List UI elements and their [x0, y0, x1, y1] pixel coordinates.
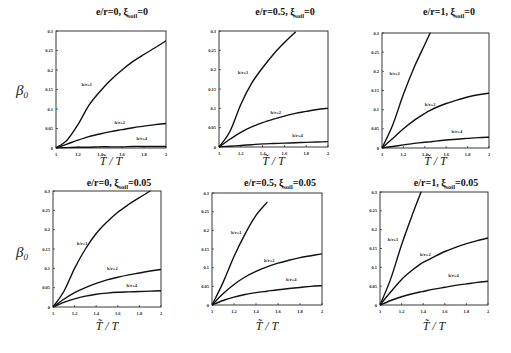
panel-title: e/r=1, ξsoil=0.05: [414, 177, 478, 190]
y-tick-label: 0: [51, 146, 54, 151]
curve-label: h/r=2: [115, 120, 126, 125]
panel-title: e/r=1, ξsoil=0: [423, 6, 475, 19]
x-tick-label: 1.6: [275, 309, 281, 314]
x-tick-label: 1.2: [238, 151, 244, 156]
y-tick-label: 0: [48, 305, 51, 310]
y-tick-label: 0.2: [373, 69, 379, 74]
y-tick-label: 0.15: [201, 247, 210, 252]
curve-label: h/r=1: [77, 241, 88, 246]
y-tick-label: 0.3: [210, 29, 216, 34]
curve-label: h/r=1: [82, 82, 93, 87]
x-tick-label: 1: [52, 311, 55, 316]
x-tick-label: 1.8: [141, 152, 147, 157]
y-tick-label: 0.15: [369, 246, 378, 251]
curve-label: h/r=2: [270, 110, 281, 115]
y-tick-label: 0.25: [208, 48, 217, 53]
x-tick-label: 2: [160, 311, 163, 316]
y-tick-label: 0.05: [369, 284, 378, 289]
y-tick-label: 0.15: [42, 247, 51, 252]
x-axis-label: T̃ / T: [256, 319, 280, 333]
panel-title: e/r=0, ξsoil=0.05: [87, 177, 151, 190]
y-tick-label: 0.2: [371, 227, 377, 232]
y-tick-label: 0.3: [373, 31, 379, 36]
curve-label: h/r=2: [107, 266, 118, 271]
y-tick-label: 0: [375, 303, 378, 308]
x-tick-label: 1.6: [442, 309, 448, 314]
x-tick-label: 1: [218, 151, 221, 156]
y-tick-label: 0.15: [45, 87, 54, 92]
plot-area: [56, 31, 166, 148]
x-tick-label: 1.4: [420, 309, 426, 314]
y-tick-label: 0: [377, 146, 380, 151]
curve-label: h/r=4: [137, 136, 148, 141]
y-tick-label: 0.2: [210, 67, 216, 72]
y-tick-label: 0.25: [45, 48, 54, 53]
y-tick-label: 0.2: [47, 68, 53, 73]
y-tick-label: 0.3: [371, 190, 377, 195]
curve-label: h/r=4: [127, 283, 138, 288]
curve-label: h/r=4: [448, 273, 459, 278]
curve-label: h/r=1: [388, 237, 399, 242]
y-tick-label: 0.1: [203, 265, 209, 270]
x-tick-label: 1.8: [464, 309, 470, 314]
y-tick-label: 0.1: [47, 107, 53, 112]
y-tick-label: 0.1: [210, 106, 216, 111]
panel-title: e/r=0.5, ξsoil=0: [255, 6, 314, 19]
x-tick-label: 1.2: [72, 311, 78, 316]
x-axis-label: T̃ / T: [424, 154, 448, 168]
curve-label: h/r=2: [264, 258, 275, 263]
plot-area: [380, 192, 488, 305]
panels-group: e/r=0, ξsoil=000.050.10.150.20.250.311.2…: [15, 6, 491, 333]
y-tick-label: 0.05: [45, 126, 54, 131]
chart-panel-6: e/r=1, ξsoil=0.0500.050.10.150.20.250.31…: [369, 177, 490, 333]
x-tick-label: 1.8: [465, 152, 471, 157]
panel-title: e/r=0, ξsoil=0: [96, 6, 148, 19]
x-tick-label: 2: [327, 151, 330, 156]
y-tick-label: 0.3: [44, 189, 50, 194]
x-tick-label: 1: [379, 309, 382, 314]
x-tick-label: 1.4: [93, 311, 99, 316]
chart-panel-3: e/r=1, ξsoil=000.050.10.150.20.250.311.2…: [371, 6, 491, 168]
y-tick-label: 0.2: [44, 227, 50, 232]
y-tick-label: 0: [214, 145, 217, 150]
x-axis-label: T̃ / T: [423, 319, 447, 333]
x-tick-label: 1: [381, 152, 384, 157]
x-tick-label: 1.8: [303, 151, 309, 156]
y-tick-label: 0.1: [44, 266, 50, 271]
x-tick-label: 1.2: [75, 152, 81, 157]
y-tick-label: 0.05: [201, 284, 210, 289]
x-tick-label: 2: [165, 152, 168, 157]
x-tick-label: 1.6: [115, 311, 121, 316]
x-tick-label: 1.2: [399, 309, 405, 314]
plot-area: [219, 31, 328, 147]
y-tick-label: 0: [207, 303, 210, 308]
x-axis-label: T̃ / T: [96, 319, 120, 333]
y-tick-label: 0.25: [369, 208, 378, 213]
curve-label: h/r=1: [238, 70, 249, 75]
y-tick-label: 0.15: [371, 88, 380, 93]
y-tick-label: 0.05: [42, 285, 51, 290]
x-axis-label: T̃ / T: [100, 154, 124, 168]
curve-label: h/r=2: [420, 252, 431, 257]
x-tick-label: 2: [321, 309, 324, 314]
y-tick-label: 0.1: [371, 265, 377, 270]
panel-title: e/r=0.5, ξsoil=0.05: [244, 177, 316, 190]
plot-area: [53, 191, 161, 307]
x-tick-label: 1.2: [401, 152, 407, 157]
x-tick-label: 1.8: [297, 309, 303, 314]
x-tick-label: 1.2: [231, 309, 237, 314]
chart-panel-1: e/r=0, ξsoil=000.050.10.150.20.250.311.2…: [15, 6, 168, 168]
curve-label: h/r=4: [452, 129, 463, 134]
curve-label: h/r=4: [286, 277, 297, 282]
x-tick-label: 1: [55, 152, 58, 157]
chart-panel-4: e/r=0, ξsoil=0.0500.050.10.150.20.250.31…: [15, 177, 163, 333]
y-tick-label: 0.3: [203, 191, 209, 196]
y-tick-label: 0.2: [203, 228, 209, 233]
y-axis-label: β0: [15, 244, 28, 262]
y-tick-label: 0.3: [47, 29, 53, 34]
x-axis-label: T̃ / T: [262, 154, 286, 168]
x-tick-label: 1.4: [253, 309, 259, 314]
y-axis-label: β0: [15, 82, 28, 100]
x-tick-label: 1.8: [137, 311, 143, 316]
curve-label: h/r=2: [425, 102, 436, 107]
